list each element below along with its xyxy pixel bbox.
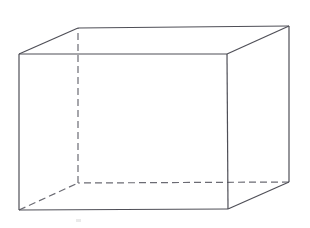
edge-front-bottom xyxy=(19,209,228,210)
face-right xyxy=(227,26,289,209)
paper-smudge-artifact xyxy=(76,219,81,222)
edge-connector-bottom-left-hidden xyxy=(19,183,78,210)
rectangular-prism-diagram: Rectangular prism (cuboid) wireframe Lin… xyxy=(0,0,310,228)
figure-canvas: Rectangular prism (cuboid) wireframe Lin… xyxy=(0,0,310,228)
face-front xyxy=(19,54,228,210)
